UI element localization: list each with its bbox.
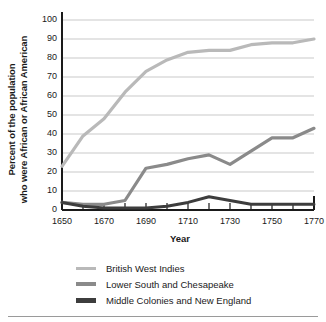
legend-item: British West Indies xyxy=(76,260,326,276)
x-tick-label: 1650 xyxy=(46,216,78,226)
y-tick-label: 90 xyxy=(35,33,57,43)
x-tick-label: 1690 xyxy=(130,216,162,226)
legend-label: British West Indies xyxy=(106,263,185,274)
y-tick-label: 60 xyxy=(35,90,57,100)
x-tick-label: 1750 xyxy=(256,216,288,226)
legend-line-swatch xyxy=(76,282,96,286)
chart-figure: Percent of the population who were Afric… xyxy=(0,0,326,322)
y-tick-label: 40 xyxy=(35,128,57,138)
x-tick-label: 1710 xyxy=(172,216,204,226)
y-tick-label: 10 xyxy=(35,185,57,195)
x-tick-label: 1770 xyxy=(298,216,326,226)
x-tick-label: 1730 xyxy=(214,216,246,226)
legend-item: Lower South and Chesapeake xyxy=(76,276,326,292)
series-line-2 xyxy=(62,128,314,204)
y-tick-label: 50 xyxy=(35,109,57,119)
plot-area: Percent of the population who were Afric… xyxy=(0,0,326,250)
y-tick-label: 100 xyxy=(35,14,57,24)
y-tick-label: 70 xyxy=(35,71,57,81)
y-tick-label: 20 xyxy=(35,166,57,176)
legend-line-swatch xyxy=(76,298,96,303)
x-tick-label: 1670 xyxy=(88,216,120,226)
y-tick-label: 0 xyxy=(35,204,57,214)
legend-label: Middle Colonies and New England xyxy=(106,295,251,306)
bottom-divider xyxy=(8,316,318,317)
legend-line-swatch xyxy=(76,267,96,270)
y-tick-label: 80 xyxy=(35,52,57,62)
y-tick-label: 30 xyxy=(35,147,57,157)
legend-item: Middle Colonies and New England xyxy=(76,292,326,308)
x-axis-title: Year xyxy=(60,233,300,244)
legend-label: Lower South and Chesapeake xyxy=(106,279,234,290)
chart-legend: British West IndiesLower South and Chesa… xyxy=(76,260,326,308)
